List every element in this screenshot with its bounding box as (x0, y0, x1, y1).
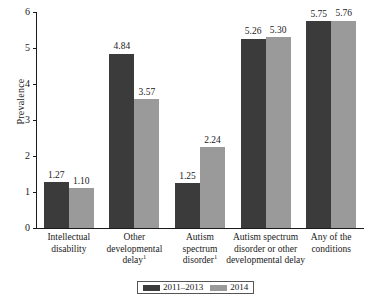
legend-swatch-2011-2013 (143, 285, 160, 291)
x-axis-label: Autism spectrumdisorder or otherdevelopm… (220, 232, 312, 267)
y-tick-mark (33, 12, 37, 13)
bar: 5.76 (331, 21, 356, 228)
bar-group: 1.271.10 (44, 12, 94, 228)
y-tick-mark (33, 84, 37, 85)
bar-value-label: 1.25 (179, 172, 196, 182)
x-axis-line (36, 228, 364, 229)
y-tick-label: 6 (8, 7, 30, 17)
y-tick-label: 1 (8, 187, 30, 197)
bar-value-label: 5.26 (245, 27, 262, 37)
y-tick-mark (33, 228, 37, 229)
bar-group: 5.265.30 (241, 12, 291, 228)
y-tick-label: 0 (8, 223, 30, 233)
plot-area: 0123456 1.271.104.843.571.252.245.265.30… (36, 12, 364, 229)
x-axis-label: Otherdevelopmentaldelay1 (92, 232, 176, 267)
bar: 4.84 (109, 54, 134, 228)
chart-legend: 2011–2013 2014 (137, 281, 254, 294)
bar-value-label: 3.57 (139, 88, 156, 98)
legend-label: 2014 (230, 283, 248, 292)
bar-group: 1.252.24 (175, 12, 225, 228)
bar-value-label: 5.75 (310, 10, 327, 20)
bar-group: 4.843.57 (109, 12, 159, 228)
y-tick-label: 3 (8, 115, 30, 125)
bar-value-label: 4.84 (114, 42, 131, 52)
legend-swatch-2014 (210, 285, 227, 291)
y-axis-label: Prevalence (15, 42, 26, 162)
bar-chart: Prevalence 0123456 1.271.104.843.571.252… (0, 0, 370, 303)
bar: 5.26 (241, 39, 266, 228)
bar-value-label: 5.76 (335, 9, 352, 19)
bar: 5.30 (266, 37, 291, 228)
legend-item: 2011–2013 (143, 283, 203, 292)
bar: 1.10 (69, 188, 94, 228)
bar-value-label: 1.27 (48, 171, 65, 181)
y-tick-mark (33, 192, 37, 193)
x-axis-category-labels: IntellectualdisabilityOtherdevelopmental… (36, 232, 364, 276)
bar: 1.25 (175, 183, 200, 228)
y-tick-label: 5 (8, 43, 30, 53)
y-tick-mark (33, 120, 37, 121)
bar-value-label: 5.30 (270, 26, 287, 36)
y-tick-label: 4 (8, 79, 30, 89)
y-tick-mark (33, 156, 37, 157)
legend-item: 2014 (210, 283, 248, 292)
y-tick-label: 2 (8, 151, 30, 161)
bar: 1.27 (44, 182, 69, 228)
bar-group: 5.755.76 (306, 12, 356, 228)
bar-value-label: 2.24 (204, 136, 221, 146)
legend-label: 2011–2013 (163, 283, 203, 292)
bar: 3.57 (134, 99, 159, 228)
x-axis-label: Any of theconditions (300, 232, 362, 255)
bar-value-label: 1.10 (73, 177, 90, 187)
bar: 2.24 (200, 147, 225, 228)
y-tick-mark (33, 48, 37, 49)
bar: 5.75 (306, 21, 331, 228)
